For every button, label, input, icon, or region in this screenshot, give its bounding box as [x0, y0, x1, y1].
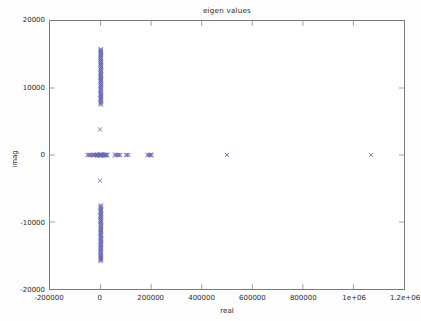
x-tick-label: 1e+06 [342, 294, 366, 302]
y-tick-label: 0 [0, 151, 45, 159]
x-tick-label: 1.2e+06 [390, 294, 420, 302]
x-tick-label: 400000 [188, 294, 215, 302]
scatter-canvas [50, 21, 404, 289]
y-axis-label: imag [11, 139, 19, 179]
y-tick-label: -20000 [0, 286, 45, 294]
x-tick-label: 200000 [137, 294, 164, 302]
y-tick-label: 20000 [0, 16, 45, 24]
figure-window: eigen values real imag 20000100000-10000… [0, 0, 421, 321]
page-title: eigen values [49, 6, 405, 15]
data-point [369, 153, 373, 157]
x-tick-label: 600000 [239, 294, 266, 302]
data-point [225, 153, 229, 157]
y-tick-label: -10000 [0, 219, 45, 227]
y-tick-label: 10000 [0, 84, 45, 92]
x-axis-label: real [49, 307, 405, 315]
x-tick-label: -200000 [34, 294, 63, 302]
data-point [98, 127, 102, 131]
data-point-group [85, 47, 373, 263]
plot-area [49, 20, 405, 290]
x-tick-label: 800000 [290, 294, 317, 302]
x-tick-label: 0 [98, 294, 102, 302]
data-point [98, 179, 102, 183]
